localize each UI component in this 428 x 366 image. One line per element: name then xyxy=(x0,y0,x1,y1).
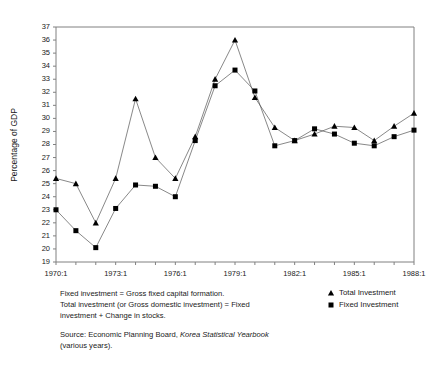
data-point-triangle xyxy=(152,154,158,160)
data-point-triangle xyxy=(93,220,99,226)
chart-canvas: Percentage of GDP 1920212223242526272829… xyxy=(0,0,428,366)
y-tick-label: 28 xyxy=(42,139,50,148)
data-point-square xyxy=(73,228,78,233)
data-point-square xyxy=(173,194,178,199)
data-point-triangle xyxy=(331,123,337,129)
data-point-triangle xyxy=(53,175,59,181)
chart-legend: Total InvestmentFixed Investment xyxy=(328,288,399,309)
y-axis-ticks: 19202122232425262728293031323334353637 xyxy=(42,22,56,266)
legend-label: Total Investment xyxy=(339,288,397,297)
data-point-square xyxy=(352,141,357,146)
data-point-triangle xyxy=(212,76,218,82)
data-point-triangle xyxy=(113,175,119,181)
note-line-2: Total investment (or Gross domestic inve… xyxy=(60,300,250,309)
data-point-square xyxy=(193,138,198,143)
source-title: Korea Statistical Yearbook xyxy=(180,330,270,339)
x-tick-label: 1970:1 xyxy=(45,269,68,278)
x-tick-label: 1979:1 xyxy=(224,269,247,278)
data-point-square xyxy=(292,138,297,143)
y-tick-label: 26 xyxy=(42,166,50,175)
legend-marker-square-icon xyxy=(329,303,334,308)
data-point-triangle xyxy=(132,96,138,102)
y-tick-label: 34 xyxy=(42,61,50,70)
x-tick-label: 1985:1 xyxy=(343,269,366,278)
data-point-triangle xyxy=(391,123,397,129)
data-point-square xyxy=(153,184,158,189)
data-point-square xyxy=(312,126,317,131)
x-tick-label: 1982:1 xyxy=(283,269,306,278)
data-point-square xyxy=(332,132,337,137)
source-prefix: Source: Economic Planning Board, xyxy=(60,330,180,339)
data-point-triangle xyxy=(328,290,334,296)
data-point-square xyxy=(93,245,98,250)
y-tick-label: 23 xyxy=(42,205,50,214)
data-point-triangle xyxy=(272,124,278,130)
y-tick-label: 30 xyxy=(42,113,50,122)
data-point-square xyxy=(133,182,138,187)
note-line-1: Fixed investment = Gross fixed capital f… xyxy=(60,289,224,298)
y-axis-label: Percentage of GDP xyxy=(9,108,19,182)
data-point-square xyxy=(213,83,218,88)
data-point-square xyxy=(233,68,238,73)
chart-notes: Fixed investment = Gross fixed capital f… xyxy=(60,289,270,350)
data-point-square xyxy=(412,128,417,133)
y-tick-label: 29 xyxy=(42,126,50,135)
data-point-square xyxy=(54,207,59,212)
y-tick-label: 24 xyxy=(42,192,50,201)
data-point-square xyxy=(272,143,277,148)
data-point-triangle xyxy=(232,37,238,43)
series-markers xyxy=(53,37,417,250)
data-point-square xyxy=(329,303,334,308)
legend-label: Fixed Investment xyxy=(339,300,399,309)
y-tick-label: 25 xyxy=(42,179,50,188)
series-line-fixed-investment xyxy=(56,70,414,248)
plot-axes xyxy=(56,27,414,262)
data-point-square xyxy=(372,143,377,148)
data-point-triangle xyxy=(311,131,317,137)
y-tick-label: 19 xyxy=(42,257,50,266)
y-tick-label: 22 xyxy=(42,218,50,227)
data-point-square xyxy=(392,134,397,139)
y-tick-label: 20 xyxy=(42,244,50,253)
x-axis-ticks: 1970:11973:11976:11979:11982:11985:11988… xyxy=(45,262,426,278)
source-years: (various years). xyxy=(60,341,112,350)
series-markers-fixed-investment xyxy=(54,68,417,251)
y-tick-label: 36 xyxy=(42,35,50,44)
x-tick-label: 1988:1 xyxy=(403,269,426,278)
x-tick-label: 1973:1 xyxy=(104,269,127,278)
x-tick-label: 1976:1 xyxy=(164,269,187,278)
series-line-total-investment xyxy=(56,40,414,223)
data-point-triangle xyxy=(371,137,377,143)
note-line-3: investment + Change in stocks. xyxy=(60,311,166,320)
y-tick-label: 21 xyxy=(42,231,50,240)
investment-chart-figure: Percentage of GDP 1920212223242526272829… xyxy=(0,0,428,366)
data-point-square xyxy=(252,88,257,93)
y-tick-label: 37 xyxy=(42,22,50,31)
y-tick-label: 31 xyxy=(42,100,50,109)
y-tick-label: 35 xyxy=(42,48,50,57)
data-point-triangle xyxy=(411,110,417,116)
legend-marker-triangle-icon xyxy=(328,290,334,296)
source-line: Source: Economic Planning Board, Korea S… xyxy=(60,330,270,339)
y-tick-label: 27 xyxy=(42,153,50,162)
data-point-square xyxy=(113,206,118,211)
y-tick-label: 32 xyxy=(42,87,50,96)
y-tick-label: 33 xyxy=(42,74,50,83)
